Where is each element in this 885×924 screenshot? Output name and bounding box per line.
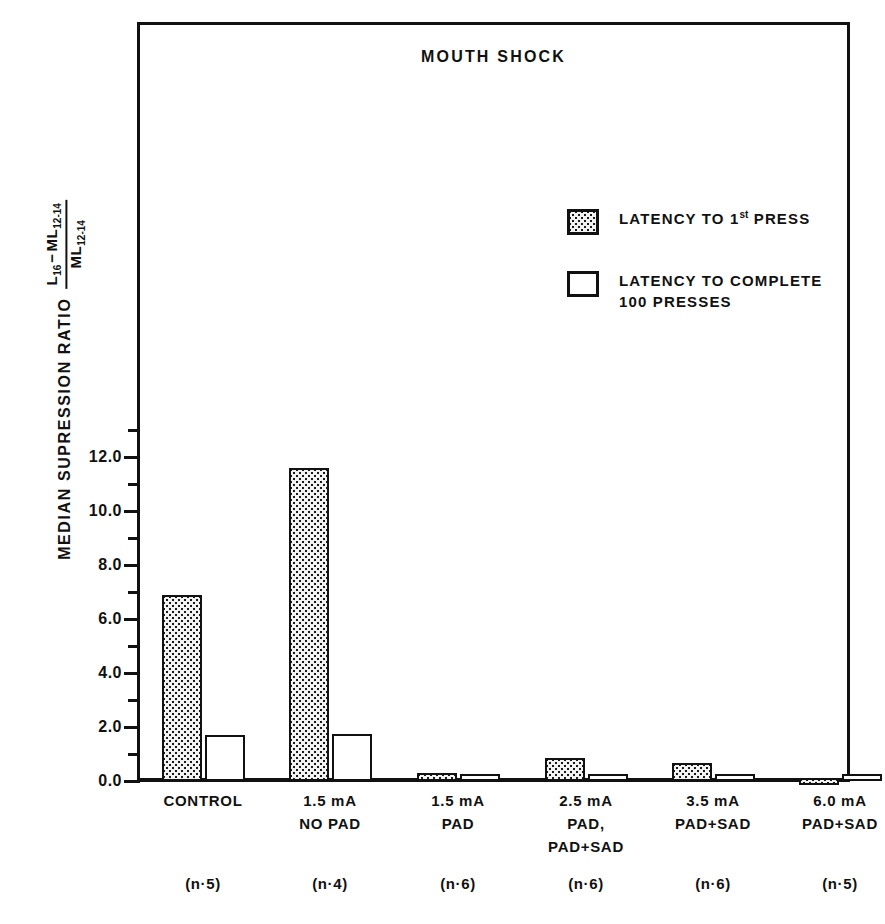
y-tick-label: 0.0 bbox=[98, 772, 122, 790]
x-axis-label: CONTROL bbox=[143, 790, 263, 813]
legend-entry-latency-first-press: LATENCY TO 1st PRESS bbox=[567, 208, 847, 235]
bar-latency-complete bbox=[332, 734, 372, 781]
legend-swatch-stippled-icon bbox=[567, 209, 599, 235]
y-tick-minor bbox=[128, 645, 140, 648]
bar-latency-complete bbox=[205, 735, 245, 781]
y-tick-label: 10.0 bbox=[89, 502, 122, 520]
y-axis-formula-numerator: L16 − ML12-14 bbox=[44, 200, 67, 288]
y-tick-major bbox=[124, 726, 140, 729]
y-tick-minor bbox=[128, 753, 140, 756]
x-axis-group-size: (n·4) bbox=[270, 875, 390, 892]
y-tick-major bbox=[124, 672, 140, 675]
y-tick-minor bbox=[128, 591, 140, 594]
x-axis-labels: CONTROL1.5 mA NO PAD1.5 mA PAD2.5 mA PAD… bbox=[140, 790, 847, 865]
bar-latency-complete bbox=[460, 774, 500, 781]
x-axis-group-size: (n·6) bbox=[398, 875, 518, 892]
chart-legend: LATENCY TO 1st PRESS LATENCY TO COMPLETE… bbox=[567, 208, 847, 348]
y-tick-major bbox=[124, 780, 140, 783]
bar-latency-first-press bbox=[545, 758, 585, 781]
x-axis-label: 1.5 mA NO PAD bbox=[270, 790, 390, 836]
legend-swatch-open-icon bbox=[567, 271, 599, 297]
bar-latency-first-press bbox=[289, 468, 329, 781]
y-tick-major bbox=[124, 456, 140, 459]
bar-latency-complete bbox=[588, 774, 628, 781]
y-tick-major bbox=[124, 564, 140, 567]
x-axis-group-size: (n·5) bbox=[143, 875, 263, 892]
y-axis-title: MEDIAN SUPRESSION RATIO L16 − ML12-14 ML… bbox=[0, 0, 130, 760]
legend-label-latency-first-press: LATENCY TO 1st PRESS bbox=[619, 208, 810, 229]
y-tick-label: 12.0 bbox=[89, 448, 122, 466]
x-axis-group-size: (n·6) bbox=[653, 875, 773, 892]
legend-entry-latency-complete: LATENCY TO COMPLETE 100 PRESSES bbox=[567, 270, 847, 313]
legend-label-latency-complete: LATENCY TO COMPLETE 100 PRESSES bbox=[619, 270, 823, 313]
y-tick-minor bbox=[128, 537, 140, 540]
y-tick-minor bbox=[128, 483, 140, 486]
y-tick-label: 4.0 bbox=[98, 664, 122, 682]
x-axis-label: 1.5 mA PAD bbox=[398, 790, 518, 836]
x-axis-label: 3.5 mA PAD+SAD bbox=[653, 790, 773, 836]
y-axis-formula-denominator: ML12-14 bbox=[67, 217, 88, 271]
figure-root: MOUTH SHOCK MEDIAN SUPRESSION RATIO L16 … bbox=[0, 0, 885, 924]
y-tick-label: 2.0 bbox=[98, 718, 122, 736]
x-axis-label: 2.5 mA PAD, PAD+SAD bbox=[526, 790, 646, 858]
bar-latency-first-press bbox=[417, 773, 457, 781]
y-tick-label: 8.0 bbox=[98, 556, 122, 574]
y-tick-minor bbox=[128, 699, 140, 702]
x-axis-group-size: (n·5) bbox=[780, 875, 885, 892]
x-axis-group-size: (n·6) bbox=[526, 875, 646, 892]
y-tick-major bbox=[124, 618, 140, 621]
plot-area bbox=[140, 25, 847, 781]
y-tick-major bbox=[124, 510, 140, 513]
bar-latency-complete bbox=[715, 774, 755, 781]
y-axis-title-text: MEDIAN SUPRESSION RATIO bbox=[56, 298, 74, 560]
x-axis-label: 6.0 mA PAD+SAD bbox=[780, 790, 885, 836]
y-axis-formula: L16 − ML12-14 ML12-14 bbox=[44, 200, 87, 288]
bar-latency-first-press bbox=[672, 763, 712, 781]
bar-latency-first-press bbox=[162, 595, 202, 781]
y-tick-minor bbox=[128, 429, 140, 432]
bar-latency-complete bbox=[842, 774, 882, 781]
y-tick-label: 6.0 bbox=[98, 610, 122, 628]
x-axis-group-sizes: (n·5)(n·4)(n·6)(n·6)(n·6)(n·5) bbox=[140, 875, 847, 905]
bar-latency-first-press bbox=[799, 778, 839, 785]
